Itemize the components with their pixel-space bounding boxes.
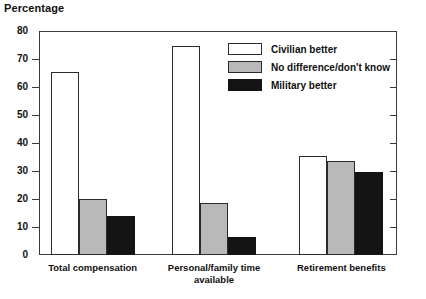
bar-2-black — [228, 237, 256, 255]
legend-swatch-white — [228, 43, 262, 55]
legend-label: Civilian better — [271, 44, 337, 55]
legend-swatch-black — [228, 79, 262, 91]
bar-3-white — [299, 156, 327, 255]
legend-item-2: No difference/don't know — [228, 58, 390, 76]
x-axis-label-line: Retirement benefits — [266, 262, 416, 274]
legend-label: Military better — [271, 80, 337, 91]
chart-legend: Civilian betterNo difference/don't knowM… — [228, 40, 390, 94]
x-axis-label-group-3: Retirement benefits — [266, 262, 416, 274]
legend-swatch-gray — [228, 61, 262, 73]
legend-item-3: Military better — [228, 76, 390, 94]
bar-1-gray — [79, 199, 107, 255]
bar-2-gray — [200, 203, 228, 255]
bar-3-gray — [327, 161, 355, 255]
legend-label: No difference/don't know — [271, 62, 390, 73]
x-axis-label-line: available — [139, 274, 289, 286]
bar-3-black — [355, 172, 383, 255]
bar-1-white — [51, 72, 79, 255]
bar-chart: Percentage 80706050403020100 Total compe… — [0, 0, 426, 299]
legend-item-1: Civilian better — [228, 40, 390, 58]
bar-1-black — [107, 216, 135, 255]
bar-2-white — [172, 46, 200, 255]
